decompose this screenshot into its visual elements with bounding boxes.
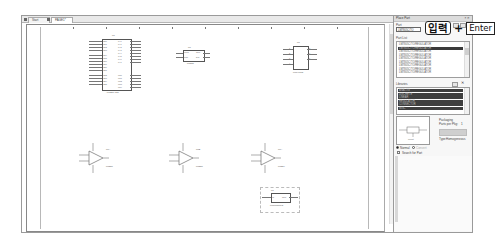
ruler-tick	[304, 27, 305, 29]
panel-scrollbar[interactable]	[395, 156, 398, 222]
part-small-ic[interactable]: U? TRIG RST OUT DIS LM555	[175, 46, 211, 68]
parts-per-pkg-value: 1	[461, 122, 463, 126]
panel-empty-area	[394, 156, 472, 231]
regulator-body	[271, 193, 291, 203]
instruction-annotation: 입력 + Enter	[425, 21, 495, 35]
part-opamp-1[interactable]: U?A LM358	[79, 143, 119, 173]
schematic-page-icon	[47, 18, 50, 21]
annotation-input-text: 입력	[425, 21, 451, 35]
part-value: LM7805C/TO	[270, 204, 283, 206]
part-list[interactable]: LM7805C/TO/REGULATOR LM7805C/TO/REGULATO…	[396, 41, 470, 78]
ruler-tick	[139, 27, 140, 29]
part-value: LM358	[106, 165, 113, 167]
dip8-body	[293, 46, 309, 70]
ruler-tick	[106, 27, 107, 29]
ruler-tick	[172, 27, 173, 29]
tab-label: PAGE1*	[55, 18, 66, 22]
part-refdes: U?B	[196, 148, 200, 150]
convert-label: Convert	[416, 146, 427, 150]
preview-caption: Pinout	[408, 138, 414, 140]
part-refdes: U?	[188, 46, 191, 48]
part-search-input[interactable]: LM7805C/TO	[396, 27, 421, 32]
list-item[interactable]: LM7805C/TO/REGULATOR	[398, 71, 463, 74]
delete-library-icon[interactable]: ✕	[461, 81, 464, 85]
mcu-left-pins	[89, 41, 102, 89]
part-opamp-3[interactable]: U?A LM324	[251, 143, 291, 173]
panel-title: Place Part	[394, 16, 410, 20]
part-refdes: U?	[112, 34, 115, 36]
part-refdes: U?	[297, 41, 300, 43]
part-opamp-2[interactable]: U?B LM358	[169, 143, 209, 173]
annotation-plus: +	[454, 22, 463, 35]
drawing-area[interactable]: U?	[40, 27, 369, 229]
libraries-list[interactable]: ANALOG DISCRETE LINEAR REGULATOR CONNECT…	[396, 87, 470, 115]
part-value: LM358	[196, 165, 203, 167]
part-preview: Pinout	[396, 116, 430, 145]
part-list-scrollbar[interactable]	[464, 42, 469, 77]
library-item[interactable]: MISC	[398, 107, 463, 110]
part-value: LM741/TO	[293, 71, 303, 73]
pkg-part-dropdown[interactable]	[439, 129, 467, 136]
normal-label: Normal	[400, 146, 410, 150]
part-input-value: LM7805C/TO	[398, 29, 414, 32]
page-icon	[24, 18, 27, 21]
part-mcu[interactable]: U?	[87, 34, 147, 96]
type-value: Homogeneous	[446, 137, 466, 141]
mcu-right-pin-labels: PA0 PA1 PA2 PA3 PA4 PA5 PA6 PA7 PC0 PC1 …	[118, 40, 130, 88]
opamp-symbol-icon	[169, 143, 209, 173]
part-value: LM555	[187, 62, 194, 64]
opamp-symbol-icon	[251, 143, 291, 173]
convert-radio[interactable]	[412, 146, 415, 149]
enter-key-icon: Enter	[466, 22, 495, 35]
schematic-page[interactable]: U?	[26, 24, 385, 232]
search-expand-toggle[interactable]	[397, 151, 400, 154]
part-refdes: U?	[271, 189, 274, 191]
tab-label: Start	[32, 18, 38, 22]
ruler-tick	[73, 27, 74, 29]
part-value: LM324	[278, 165, 285, 167]
part-refdes: U?A	[278, 148, 282, 150]
tab-page1[interactable]: PAGE1*	[51, 17, 73, 23]
place-part-panel: Place Part × ✕ Part LM7805C/TO Part List…	[393, 15, 473, 233]
mcu-left-pin-labels: PE0 PE1 PE2 PE3 PE4 PE5 PE6 PE7 PB0 PB1 …	[103, 40, 115, 88]
schematic-window: Start PAGE1* U?	[21, 15, 395, 233]
libraries-label: Libraries	[396, 82, 408, 86]
normal-radio[interactable]	[396, 146, 399, 149]
part-list-label: Part List	[396, 36, 407, 40]
libraries-scrollbar[interactable]	[464, 88, 469, 114]
ruler-tick	[337, 27, 338, 29]
tab-bar: Start PAGE1*	[22, 16, 394, 23]
mcu-right-pins	[130, 41, 143, 89]
part-dip8[interactable]: U? 1 2 3 4 8 7 6 LM741/TO	[281, 41, 321, 77]
opamp-symbol-icon	[79, 143, 119, 173]
part-value: ATMEGA128	[106, 91, 119, 93]
ruler-tick	[238, 27, 239, 29]
ruler-tick	[271, 27, 272, 29]
part-regulator[interactable]: U? IN OUT LM7805C/TO	[260, 187, 300, 213]
parts-per-pkg-label: Parts per Pkg:	[439, 122, 458, 126]
search-for-part-label[interactable]: Search for Part	[402, 151, 422, 155]
ruler-tick	[205, 27, 206, 29]
part-refdes: U?A	[106, 148, 110, 150]
scrollbar-thumb[interactable]	[465, 48, 469, 55]
